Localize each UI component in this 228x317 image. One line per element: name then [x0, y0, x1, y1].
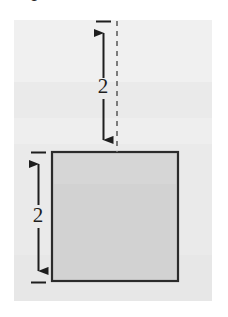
square-scan-highlight	[54, 154, 176, 184]
square-side-dimension-label: 2	[25, 205, 51, 226]
gap-dimension-label: 2	[90, 76, 116, 97]
figure-vector-layer	[0, 0, 228, 317]
geometry-figure: 1	[0, 0, 228, 317]
shaded-square	[52, 152, 178, 281]
